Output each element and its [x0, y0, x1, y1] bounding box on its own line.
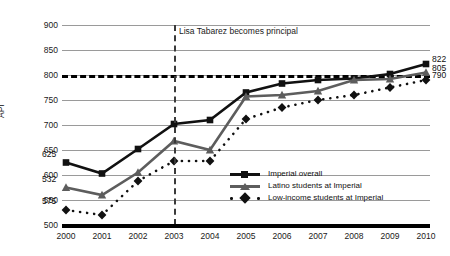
y-tick-label: 750	[22, 96, 58, 105]
x-tick-label: 2003	[154, 232, 194, 241]
x-tick-label: 2008	[334, 232, 374, 241]
reference-line-2003	[174, 25, 176, 225]
point-value-label: 532	[42, 175, 56, 184]
series-marker	[62, 206, 71, 215]
series-marker	[314, 96, 323, 105]
point-value-label: 625	[42, 150, 56, 159]
x-tick-label: 2001	[82, 232, 122, 241]
x-tick-label: 2010	[406, 232, 446, 241]
legend-item-low-income-students: Low-income students at Imperial	[228, 192, 406, 204]
x-tick-label: 2002	[118, 232, 158, 241]
series-marker	[350, 91, 359, 100]
x-tick-label: 2009	[370, 232, 410, 241]
x-axis-line	[62, 224, 430, 227]
x-tick-label: 2005	[226, 232, 266, 241]
y-tick-label: 800	[22, 71, 58, 80]
series-marker	[206, 157, 215, 166]
x-tick-label: 2000	[46, 232, 86, 241]
legend-key-triangle-icon	[228, 180, 262, 192]
legend-label: Low-income students at Imperial	[268, 192, 383, 204]
x-tick-label: 2006	[262, 232, 302, 241]
series-marker	[278, 103, 287, 112]
x-tick-label: 2007	[298, 232, 338, 241]
legend-label: Latino students at Imperial	[268, 180, 362, 192]
legend-item-latino-students: Latino students at Imperial	[228, 180, 406, 192]
y-tick-label: 700	[22, 121, 58, 130]
legend-key-diamond-icon	[228, 192, 262, 204]
y-axis-ticks: 500550600650700750800850900	[14, 25, 58, 225]
y-tick-label: 900	[22, 21, 58, 30]
y-tick-label: 850	[22, 46, 58, 55]
series-marker	[207, 117, 214, 124]
series-marker	[423, 61, 430, 68]
series-marker	[98, 211, 107, 220]
series-marker	[135, 146, 142, 153]
legend-label: Imperial overall	[268, 168, 322, 180]
series-marker	[315, 77, 322, 84]
series-marker	[279, 80, 286, 87]
series-marker	[63, 159, 70, 166]
point-value-label: 790	[432, 71, 446, 80]
chart-legend: Imperial overall Latino students at Impe…	[228, 168, 406, 204]
legend-key-square-icon	[228, 168, 262, 180]
point-value-label: 575	[42, 197, 56, 206]
series-marker	[422, 76, 431, 85]
principal-annotation: Lisa Tabarez becomes principal	[179, 26, 298, 36]
series-marker	[99, 170, 106, 177]
series-marker	[134, 177, 143, 186]
y-axis-label: API	[0, 104, 6, 118]
api-line-chart: API 500550600650700750800850900 Lisa Tab…	[0, 0, 450, 256]
legend-item-imperial-overall: Imperial overall	[228, 168, 406, 180]
x-tick-label: 2004	[190, 232, 230, 241]
series-marker	[386, 83, 395, 92]
y-tick-label: 500	[22, 221, 58, 230]
